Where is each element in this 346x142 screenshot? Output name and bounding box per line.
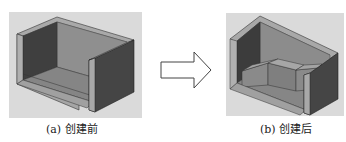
box-before-image	[9, 12, 142, 118]
box-after-image	[226, 13, 344, 116]
right-arrow-icon	[160, 51, 212, 89]
panel-after	[226, 13, 344, 116]
caption-after: (b) 创建后	[260, 120, 312, 136]
caption-before: (a) 创建前	[46, 120, 98, 136]
panel-before	[9, 12, 142, 118]
transition-arrow	[160, 51, 212, 89]
